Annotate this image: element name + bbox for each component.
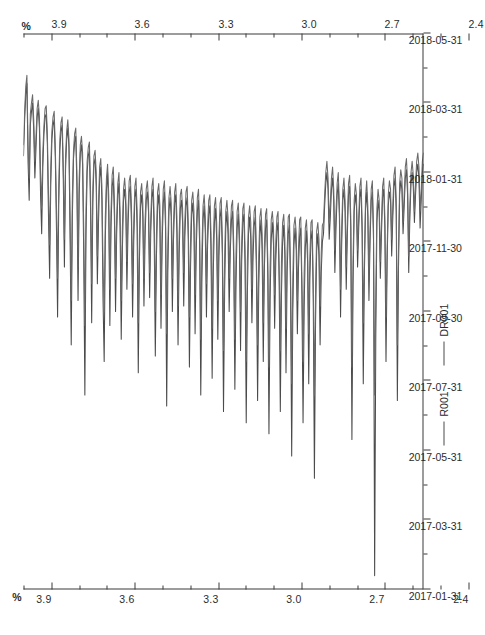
date-axis-line	[23, 33, 423, 34]
value-tick	[190, 33, 191, 37]
legend-item-dr001: DR001	[437, 303, 449, 365]
value-tick	[134, 33, 135, 40]
date-tick-label: 2017-11-30	[409, 242, 462, 254]
date-tick	[423, 67, 427, 68]
date-tick	[423, 345, 427, 346]
value-tick-label: 3.3	[218, 17, 233, 29]
value-tick	[357, 585, 358, 589]
value-tick	[162, 585, 163, 589]
value-tick-label: 2.7	[369, 593, 384, 605]
value-tick	[134, 582, 135, 589]
value-tick	[273, 585, 274, 589]
plot-area: 3.93.63.33.02.72.42.1% 3.93.63.33.02.72.…	[23, 33, 423, 589]
date-tick-label: 2017-05-31	[408, 450, 462, 462]
value-tick	[468, 582, 469, 589]
value-tick-label: 3.6	[134, 17, 149, 29]
value-tick	[79, 33, 80, 37]
date-tick-label: 2018-05-31	[408, 33, 462, 45]
date-tick	[423, 206, 427, 207]
value-tick	[412, 585, 413, 589]
value-tick-label: 3.3	[202, 593, 217, 605]
legend-line-icon	[443, 421, 444, 445]
value-tick	[384, 582, 385, 589]
legend-item-r001: R001	[437, 391, 449, 445]
value-tick	[468, 33, 469, 40]
date-tick	[423, 553, 427, 554]
value-tick	[301, 582, 302, 589]
series-plot	[23, 33, 423, 589]
date-tick	[423, 275, 427, 276]
value-tick-label: 3.0	[301, 17, 316, 29]
value-tick-label: 3.9	[51, 17, 66, 29]
value-tick-label: 3.9	[36, 593, 51, 605]
value-tick-label: 3.0	[286, 593, 301, 605]
value-tick	[357, 33, 358, 37]
date-tick-label: 2017-07-31	[408, 381, 462, 393]
value-tick	[23, 585, 24, 589]
value-tick	[273, 33, 274, 37]
value-tick	[190, 585, 191, 589]
legend-line-icon	[443, 341, 444, 365]
value-tick-label: 2.4	[468, 17, 483, 29]
value-tick	[245, 33, 246, 37]
value-tick	[218, 33, 219, 40]
date-tick-label: 2017-03-31	[408, 520, 462, 532]
value-tick	[384, 33, 385, 40]
value-tick	[329, 585, 330, 589]
date-tick	[423, 136, 427, 137]
chart-legend: R001 DR001	[437, 303, 449, 445]
date-tick-label: 2017-09-30	[408, 311, 462, 323]
value-tick	[51, 582, 52, 589]
value-tick	[329, 33, 330, 37]
value-axis-left-line	[23, 588, 423, 589]
value-tick	[23, 33, 24, 37]
value-tick	[79, 585, 80, 589]
rotated-figure: 3.93.63.33.02.72.42.1% 3.93.63.33.02.72.…	[0, 0, 485, 635]
date-tick-label: 2017-01-31	[408, 589, 462, 601]
legend-label-r001: R001	[437, 391, 449, 416]
chart-canvas: 3.93.63.33.02.72.42.1% 3.93.63.33.02.72.…	[0, 0, 485, 635]
value-tick	[51, 33, 52, 40]
value-axis-unit-label: %	[21, 19, 30, 31]
legend-label-dr001: DR001	[437, 303, 449, 336]
value-tick	[218, 582, 219, 589]
date-tick	[423, 414, 427, 415]
value-tick	[106, 585, 107, 589]
value-tick	[106, 33, 107, 37]
value-tick	[162, 33, 163, 37]
date-tick-label: 2018-03-31	[408, 103, 462, 115]
value-axis-unit-label: %	[12, 591, 21, 603]
value-tick	[245, 585, 246, 589]
date-tick	[423, 484, 427, 485]
value-tick	[440, 585, 441, 589]
value-tick	[301, 33, 302, 40]
date-tick-label: 2018-01-31	[408, 172, 462, 184]
value-tick-label: 3.6	[119, 593, 134, 605]
value-tick-label: 2.7	[384, 17, 399, 29]
